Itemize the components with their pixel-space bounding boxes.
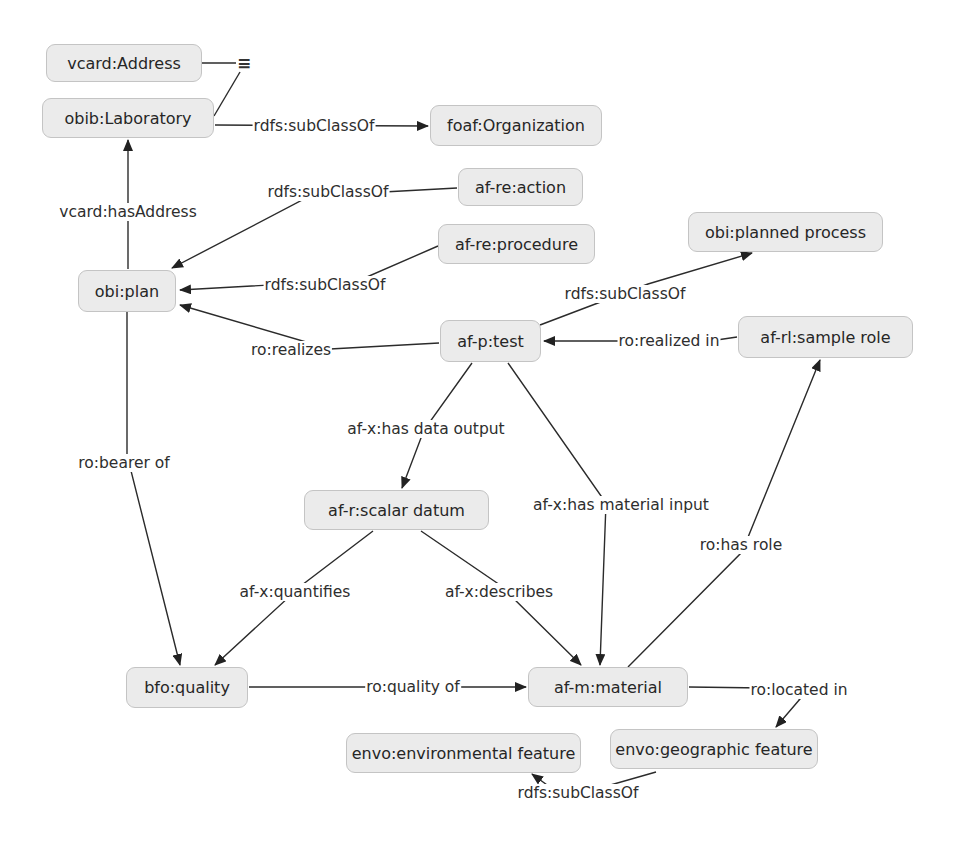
node-label: obi:planned process xyxy=(705,223,866,242)
edge-label: ro:realizes xyxy=(250,341,332,359)
edge-label: rdfs:subClassOf xyxy=(267,183,390,201)
node-afr-scalar-datum[interactable]: af-r:scalar datum xyxy=(304,490,489,530)
node-obi-planned-process[interactable]: obi:planned process xyxy=(688,212,883,252)
edge-label: rdfs:subClassOf xyxy=(253,117,376,135)
node-envo-geographic-feature[interactable]: envo:geographic feature xyxy=(610,729,818,769)
node-afm-material[interactable]: af-m:material xyxy=(528,667,688,707)
edge-label: ro:located in xyxy=(749,681,848,699)
edge-label: ro:bearer of xyxy=(77,454,170,472)
node-label: af-m:material xyxy=(554,678,662,697)
node-label: foaf:Organization xyxy=(447,116,585,135)
edge-label: af-x:has data output xyxy=(346,420,505,438)
edge-label: ro:has role xyxy=(699,536,783,554)
node-label: af-re:action xyxy=(475,178,566,197)
node-vcard-address[interactable]: vcard:Address xyxy=(46,44,202,82)
edge-label: rdfs:subClassOf xyxy=(264,276,387,294)
node-afre-action[interactable]: af-re:action xyxy=(458,168,583,206)
node-label: bfo:quality xyxy=(144,678,230,697)
edge-line xyxy=(508,363,606,665)
edge-label: af-x:has material input xyxy=(532,496,710,514)
edge-label: vcard:hasAddress xyxy=(58,203,197,221)
node-afrl-sample-role[interactable]: af-rl:sample role xyxy=(738,316,913,358)
node-envo-environmental-feature[interactable]: envo:environmental feature xyxy=(346,733,581,773)
edge-label: ro:realized in xyxy=(618,332,721,350)
edge-line xyxy=(214,72,240,116)
node-label: envo:environmental feature xyxy=(352,744,576,763)
edge-label: rdfs:subClassOf xyxy=(564,285,687,303)
equivalence-icon: ≡ xyxy=(237,53,251,73)
node-label: af-re:procedure xyxy=(455,235,578,254)
node-label: obi:plan xyxy=(95,282,159,301)
node-afre-procedure[interactable]: af-re:procedure xyxy=(438,224,595,264)
node-obib-laboratory[interactable]: obib:Laboratory xyxy=(42,98,214,138)
node-label: af-r:scalar datum xyxy=(328,501,465,520)
edge-label: rdfs:subClassOf xyxy=(517,784,640,802)
node-label: af-p:test xyxy=(457,332,524,351)
edge-label: ro:quality of xyxy=(365,678,461,696)
node-afp-test[interactable]: af-p:test xyxy=(440,320,541,362)
node-foaf-organization[interactable]: foaf:Organization xyxy=(430,105,602,146)
node-obi-plan[interactable]: obi:plan xyxy=(78,270,176,312)
edge-line xyxy=(127,312,180,665)
node-label: envo:geographic feature xyxy=(615,740,812,759)
edge-label: af-x:describes xyxy=(444,583,554,601)
node-label: obib:Laboratory xyxy=(64,109,191,128)
node-bfo-quality[interactable]: bfo:quality xyxy=(126,667,248,708)
edge-label: af-x:quantifies xyxy=(239,583,352,601)
node-label: vcard:Address xyxy=(67,54,181,73)
node-label: af-rl:sample role xyxy=(760,328,890,347)
